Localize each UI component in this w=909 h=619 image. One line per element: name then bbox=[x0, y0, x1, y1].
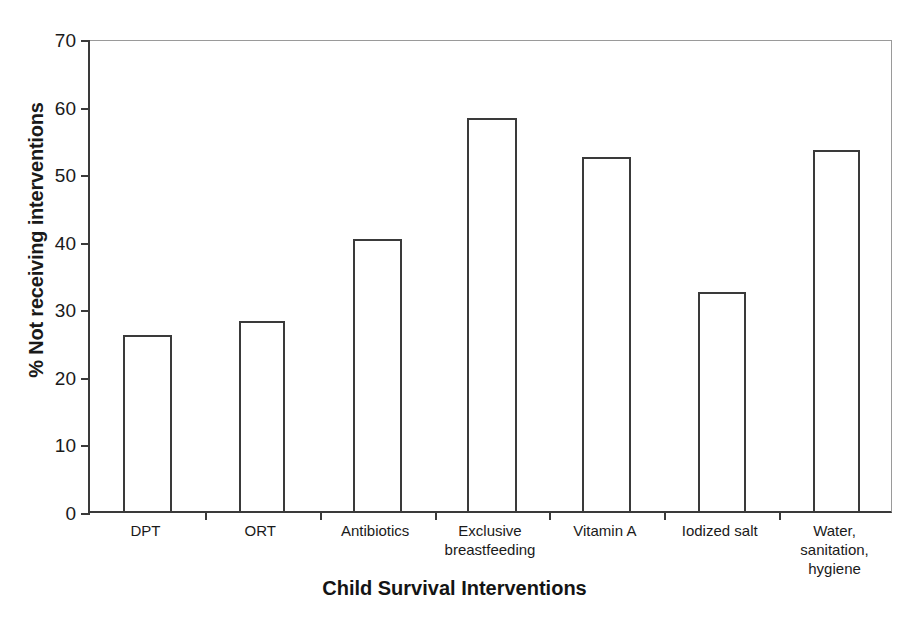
y-axis-tick-label: 60 bbox=[30, 98, 76, 117]
x-axis-tick bbox=[779, 511, 781, 520]
x-axis-category-label-line: breastfeeding bbox=[420, 540, 560, 559]
x-axis-category-label-line: sanitation, bbox=[765, 540, 905, 559]
bar bbox=[239, 321, 285, 511]
y-axis-tick-label: 20 bbox=[30, 368, 76, 387]
y-axis-tick-label: 30 bbox=[30, 301, 76, 320]
plot-area bbox=[88, 40, 892, 513]
y-axis-tick-label: 70 bbox=[30, 31, 76, 50]
x-axis-category-label-line: hygiene bbox=[765, 559, 905, 578]
y-axis-tick bbox=[81, 40, 90, 42]
x-axis-tick bbox=[205, 511, 207, 520]
x-axis-tick bbox=[664, 511, 666, 520]
bar bbox=[582, 157, 631, 511]
y-axis-tick bbox=[81, 445, 90, 447]
y-axis-tick-label: 10 bbox=[30, 436, 76, 455]
x-axis-category-label: Water,sanitation,hygiene bbox=[765, 521, 905, 578]
x-axis-title: Child Survival Interventions bbox=[0, 577, 909, 600]
y-axis-tick bbox=[81, 378, 90, 380]
y-axis-tick bbox=[81, 310, 90, 312]
bar bbox=[813, 150, 860, 511]
y-axis-tick bbox=[81, 175, 90, 177]
x-axis-category-label-line: Water, bbox=[765, 521, 905, 540]
bar bbox=[353, 239, 402, 511]
x-axis-tick bbox=[320, 511, 322, 520]
bar bbox=[123, 335, 172, 511]
y-axis-tick-label: 50 bbox=[30, 166, 76, 185]
x-axis-tick bbox=[435, 511, 437, 520]
x-axis-tick bbox=[549, 511, 551, 520]
y-axis-tick-label: 0 bbox=[30, 504, 76, 523]
chart-figure: % Not receiving interventions DPTORTAnti… bbox=[0, 0, 909, 619]
y-axis-tick bbox=[81, 108, 90, 110]
y-axis-tick bbox=[81, 243, 90, 245]
y-axis-tick-label: 40 bbox=[30, 233, 76, 252]
y-axis-tick bbox=[81, 513, 90, 515]
bar bbox=[698, 292, 746, 511]
bar bbox=[467, 118, 517, 511]
